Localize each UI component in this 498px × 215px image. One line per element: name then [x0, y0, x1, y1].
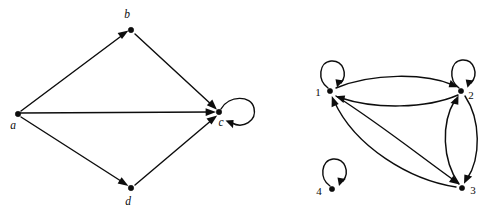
left-graph: a b c d	[10, 8, 254, 207]
node-2[interactable]	[458, 88, 463, 93]
arrowhead-self-loop-c	[226, 120, 234, 128]
node-label-a: a	[10, 119, 16, 131]
arrowhead-self-loop-4	[338, 178, 346, 186]
edge-b-to-c	[135, 34, 217, 110]
self-loop-2	[452, 60, 475, 88]
edge-1-to-3	[336, 96, 460, 185]
node-label-c: c	[218, 116, 223, 128]
node-3[interactable]	[459, 185, 464, 190]
node-label-b: b	[124, 8, 130, 20]
edge-3-to-1	[332, 96, 456, 187]
node-4[interactable]	[329, 186, 334, 191]
edge-2-to-3	[464, 96, 477, 184]
graph-diagram-canvas: a b c d	[0, 0, 498, 215]
arrowhead-into-3-from-2	[464, 175, 472, 184]
node-label-d: d	[125, 195, 131, 207]
node-label-3: 3	[470, 184, 476, 196]
node-d[interactable]	[128, 185, 133, 190]
self-loop-4	[323, 159, 346, 186]
node-c[interactable]	[216, 109, 221, 114]
self-loop-1	[321, 61, 344, 88]
edge-3-to-2	[445, 96, 459, 185]
self-loop-c	[221, 98, 254, 128]
edge-1-to-2	[336, 76, 458, 88]
node-b[interactable]	[128, 27, 133, 32]
edge-a-to-c	[20, 108, 216, 116]
edge-2-to-1	[336, 95, 458, 106]
arrowhead-into-c-from-a	[206, 108, 216, 116]
right-graph: 1 2 3 4	[315, 60, 477, 197]
node-label-1: 1	[315, 86, 321, 98]
edge-a-to-d	[21, 117, 129, 186]
figure-container: a b c d	[0, 0, 498, 215]
arrowhead-self-loop-2	[466, 79, 474, 87]
node-label-2: 2	[468, 89, 474, 101]
arrowhead-into-d	[118, 177, 129, 186]
node-a[interactable]	[15, 111, 20, 116]
node-label-4: 4	[316, 185, 322, 197]
edge-d-to-c	[135, 115, 217, 185]
node-1[interactable]	[327, 88, 332, 93]
edge-a-to-b	[21, 31, 129, 111]
